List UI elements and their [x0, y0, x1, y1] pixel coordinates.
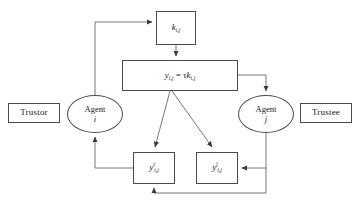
formula-label: yi,j = τki,j [165, 71, 195, 80]
node-agent-i: Agenti [67, 95, 123, 133]
trustee-label: Trustee [312, 108, 340, 117]
agent-i-label: Agenti [85, 104, 106, 124]
edge-formula-to-agent-j [238, 75, 266, 91]
node-k-value: ki,j [156, 11, 196, 45]
edge-formula-to-y-j [172, 91, 212, 147]
node-agent-j: Agentj [238, 95, 294, 133]
y-j-label: yji,j [212, 162, 222, 174]
node-y-j: yji,j [196, 152, 238, 184]
node-trustee: Trustee [300, 103, 352, 123]
agent-j-label: Agentj [256, 104, 277, 124]
node-trustor: Trustor [8, 103, 60, 123]
y-i-label: yii,j [149, 162, 159, 174]
edge-y-i-to-agent-i [95, 137, 133, 168]
trustor-label: Trustor [20, 108, 48, 117]
k-label: ki,j [172, 23, 181, 32]
edge-formula-to-y-i [155, 91, 170, 147]
node-formula: yi,j = τki,j [122, 60, 238, 91]
trust-model-diagram: Trustor Trustee ki,j yi,j = τki,j Agenti… [0, 0, 359, 203]
node-y-i: yii,j [133, 152, 175, 184]
edge-agent-j-to-y-j [242, 133, 266, 168]
